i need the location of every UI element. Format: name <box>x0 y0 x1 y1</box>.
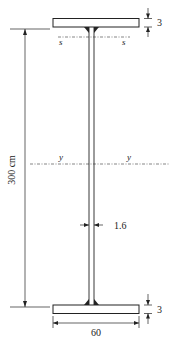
flange-width-label: 60 <box>91 327 101 338</box>
arrow-left-icon <box>94 223 99 227</box>
height-label: 300 cm <box>6 155 17 185</box>
arrow-down-icon <box>23 301 27 307</box>
y-axis-label-right: y <box>126 152 131 162</box>
arrow-right-icon <box>84 223 89 227</box>
web-thickness-label: 1.6 <box>114 220 127 231</box>
top-flange-thickness-dimension <box>144 8 152 37</box>
web <box>89 27 94 305</box>
s-axis-label-left: s <box>59 37 63 47</box>
top-flange <box>53 19 139 28</box>
web-thickness-dimension <box>80 223 103 227</box>
y-axis-label-left: y <box>58 152 63 162</box>
top-weld-icon <box>84 27 99 33</box>
i-beam-diagram: s s y y 300 cm 1.6 <box>0 0 174 342</box>
bottom-flange-thickness-label: 3 <box>157 304 162 315</box>
arrow-right-icon <box>134 321 139 325</box>
bottom-flange-thickness-dimension <box>144 294 152 324</box>
bottom-weld-icon <box>84 299 99 305</box>
arrow-left-icon <box>53 321 58 325</box>
s-axis-label-right: s <box>122 37 126 47</box>
top-flange-thickness-label: 3 <box>157 17 162 28</box>
arrow-up-icon <box>23 29 27 35</box>
bottom-flange <box>53 305 139 314</box>
